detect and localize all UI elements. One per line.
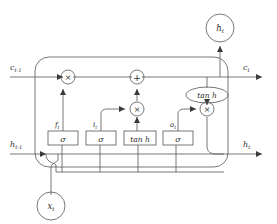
- tanh-activation-label: tan h: [197, 91, 217, 100]
- hidden-prev-label: ht-1: [10, 140, 22, 150]
- multiply-output-symbol: ×: [204, 105, 211, 114]
- input-gate-label: σ: [98, 135, 104, 144]
- forget-gate-label: σ: [60, 135, 66, 144]
- multiply-output-to-hidden: [207, 117, 224, 154]
- cell-state-prev-label: ct-1: [10, 63, 22, 73]
- output-out-stem: [178, 109, 196, 131]
- hidden-out-label: ht: [243, 140, 251, 150]
- multiply-input-symbol: ×: [134, 105, 141, 114]
- output-gate-label: σ: [175, 135, 181, 144]
- hidden-output-top-label: ht: [216, 23, 224, 34]
- output-gate-name: ot: [170, 121, 176, 130]
- multiply-forget-symbol: ×: [65, 73, 72, 82]
- input-gate-name: it: [93, 121, 97, 130]
- input-out-stem: [101, 109, 125, 131]
- add-cell-state-symbol: +: [133, 73, 141, 83]
- input-x-label: xt: [48, 201, 56, 212]
- lstm-cell-diagram: × + × × σ σ tan h σ tan h ft it ot ht xt: [0, 0, 277, 224]
- cell-state-out-label: ct: [243, 63, 250, 73]
- candidate-gate-label: tan h: [130, 135, 150, 144]
- forget-gate-name: ft: [54, 121, 60, 130]
